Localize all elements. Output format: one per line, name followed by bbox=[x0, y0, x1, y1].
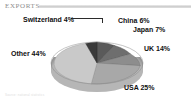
pie-label-other: Other 44% bbox=[11, 50, 46, 57]
switzerland-leader-line bbox=[71, 18, 103, 23]
figure-title: EXPORTS bbox=[5, 2, 40, 10]
pie-label-china: China 6% bbox=[118, 17, 150, 24]
pie-slices bbox=[54, 42, 140, 84]
pie-label-uk: UK 14% bbox=[144, 45, 170, 52]
source-credit: Source: national statistics bbox=[5, 93, 44, 97]
pie-label-switzerland: Switzerland 4% bbox=[23, 16, 74, 23]
pie-label-japan: Japan 7% bbox=[133, 26, 165, 33]
pie-label-usa: USA 25% bbox=[124, 84, 154, 91]
leader-vertical-segment bbox=[102, 18, 103, 23]
exports-pie-chart-figure: EXPORTS bbox=[0, 0, 193, 103]
leader-horizontal-segment bbox=[71, 18, 103, 19]
header-divider-rule bbox=[39, 5, 191, 8]
